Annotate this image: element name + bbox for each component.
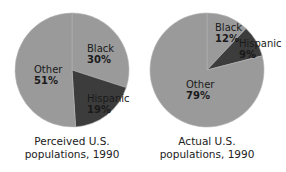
pie-caption: populations, 1990	[160, 148, 255, 160]
slice-label-black: Black	[215, 22, 242, 33]
pie-charts: Black30%Hispanic19%Other51%Perceived U.S…	[0, 0, 286, 172]
slice-label-hispanic: Hispanic	[87, 93, 130, 104]
slice-percent-other: 51%	[34, 75, 58, 86]
slice-percent-other: 79%	[186, 90, 210, 101]
slice-percent-black: 30%	[87, 54, 111, 65]
slice-label-other: Other	[34, 64, 63, 75]
slice-percent-black: 12%	[215, 33, 239, 44]
perceived-populations-pie: Black30%Hispanic19%Other51%Perceived U.S…	[15, 13, 130, 160]
slice-percent-hispanic: 19%	[87, 104, 111, 115]
slice-label-black: Black	[87, 43, 114, 54]
slice-percent-hispanic: 9%	[239, 49, 256, 60]
slice-label-hispanic: Hispanic	[239, 38, 282, 49]
pie-caption: Actual U.S.	[178, 135, 235, 147]
pie-caption: Perceived U.S.	[34, 135, 109, 147]
pie-caption: populations, 1990	[25, 148, 120, 160]
actual-populations-pie: Black12%Hispanic9%Other79%Actual U.S.pop…	[150, 13, 282, 160]
slice-label-other: Other	[186, 79, 215, 90]
